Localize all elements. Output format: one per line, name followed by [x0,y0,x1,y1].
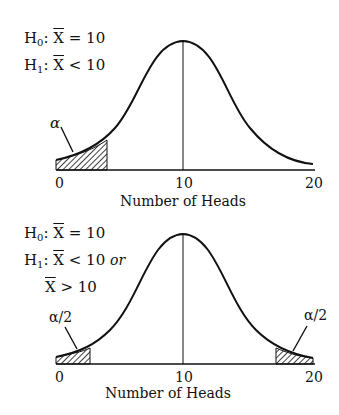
x-bar-symbol: X [53,251,64,269]
right-alpha-half-label: α/2 [304,307,327,323]
alpha-label: α [50,114,60,132]
x-tick-0: 0 [55,369,64,385]
null-hypothesis-bottom: H0: X = 10 [24,226,105,243]
left-tail-shaded-region [56,140,107,170]
h-label: H [24,29,37,47]
alpha-pointer [61,127,73,152]
h-sub: 0 [37,37,43,48]
left-alpha-half-label: α/2 [49,309,72,325]
h-sub: 1 [37,259,43,270]
right-alpha-pointer [293,326,307,351]
x-tick-20: 20 [305,369,323,385]
relation: > 10 [56,278,97,296]
h-label: H [24,224,37,242]
x-bar-symbol: X [45,278,56,296]
x-tick-20: 20 [305,175,323,191]
x-axis-label: Number of Heads [105,385,231,401]
h-label: H [24,56,37,74]
alt-hypothesis-bottom-continued: X > 10 [45,280,97,295]
left-alpha-pointer [65,327,77,349]
or-conjunction: or [110,252,125,268]
alt-hypothesis-bottom: H1: X < 10 or [24,253,125,270]
x-tick-10: 10 [175,369,193,385]
x-bar-symbol: X [53,29,64,47]
relation: < 10 [64,251,110,269]
alt-hypothesis-top: H1: X < 10 [24,58,105,75]
h-label: H [24,251,37,269]
x-axis-label: Number of Heads [120,193,246,209]
relation: = 10 [64,224,105,242]
null-hypothesis-top: H0: X = 10 [24,31,105,48]
x-tick-10: 10 [175,175,193,191]
x-tick-0: 0 [55,175,64,191]
relation: < 10 [64,56,105,74]
h-sub: 1 [37,64,43,75]
x-bar-symbol: X [53,56,64,74]
relation: = 10 [64,29,105,47]
x-bar-symbol: X [53,224,64,242]
h-sub: 0 [37,232,43,243]
